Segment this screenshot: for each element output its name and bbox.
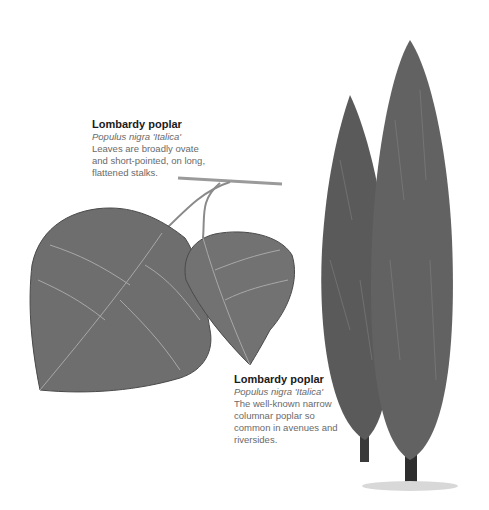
caption-title: Lombardy poplar [234, 373, 364, 386]
ground-shadow [362, 481, 458, 491]
tree-caption: Lombardy poplar Populus nigra 'Italica' … [234, 373, 364, 446]
caption-line: common in avenues and [234, 422, 364, 434]
tree-crown-right [371, 40, 453, 460]
caption-line: riversides. [234, 434, 364, 446]
caption-line: columnar poplar so [234, 410, 364, 422]
caption-latin-name: Populus nigra 'Italica' [234, 386, 364, 398]
caption-line: The well-known narrow [234, 398, 364, 410]
